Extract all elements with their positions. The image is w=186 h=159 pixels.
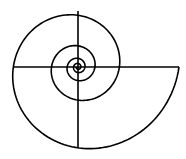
spiral-diagram — [0, 0, 186, 159]
spiral-curve — [13, 15, 179, 149]
